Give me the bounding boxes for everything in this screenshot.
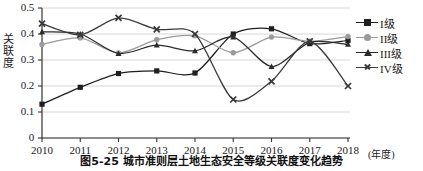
data-point-s0-p1 [78, 85, 83, 90]
y-tick-label-0: 0 [8, 131, 34, 143]
legend-label-1: II级 [378, 30, 398, 46]
data-point-s0-p2 [116, 71, 121, 76]
legend-marker-square-icon [356, 17, 378, 29]
legend-label-3: IV级 [378, 60, 403, 76]
legend-item-i[interactable]: I级 [356, 15, 422, 30]
data-point-s1-p8 [345, 34, 350, 39]
legend-marker-cross-icon [356, 62, 378, 74]
data-point-s1-p5 [231, 50, 236, 55]
data-point-s0-p3 [154, 68, 159, 73]
legend-glyph-triangle-icon [364, 49, 372, 56]
legend-glyph-cross-icon [364, 64, 371, 71]
data-point-s0-p6 [269, 26, 274, 31]
data-point-s0-p4 [192, 70, 197, 75]
chart-legend: I级II级III级IV级 [356, 15, 422, 75]
data-point-s1-p6 [269, 34, 274, 39]
legend-item-ii[interactable]: II级 [356, 30, 422, 45]
y-tick-label-4: 0.4 [8, 27, 34, 39]
series-line-3 [42, 18, 348, 101]
legend-item-iii[interactable]: III级 [356, 45, 422, 60]
legend-item-iv[interactable]: IV级 [356, 60, 422, 75]
data-point-s0-p0 [39, 102, 44, 107]
y-tick-label-5: 0.5 [8, 1, 34, 13]
figure-caption: 图5-25 城市准则层土地生态安全等级关联度变化趋势 [0, 152, 423, 168]
series-3 [39, 15, 351, 103]
data-point-s3-p6 [269, 78, 275, 84]
y-tick-label-2: 0.2 [8, 79, 34, 91]
legend-label-2: III级 [378, 45, 402, 61]
legend-glyph-square-icon [364, 19, 371, 26]
data-point-s3-p5 [230, 97, 236, 103]
data-point-s1-p0 [39, 42, 44, 47]
y-tick-label-3: 0.3 [8, 53, 34, 65]
figure-container: 关 联 度 00.10.20.30.40.5 20102011201220132… [0, 0, 423, 171]
legend-marker-circle-icon [356, 32, 378, 44]
y-tick-label-1: 0.1 [8, 105, 34, 117]
legend-label-0: I级 [378, 15, 395, 31]
series-line-0 [42, 28, 348, 104]
legend-glyph-circle-icon [364, 34, 371, 41]
data-point-s1-p3 [154, 37, 159, 42]
legend-marker-triangle-icon [356, 47, 378, 59]
